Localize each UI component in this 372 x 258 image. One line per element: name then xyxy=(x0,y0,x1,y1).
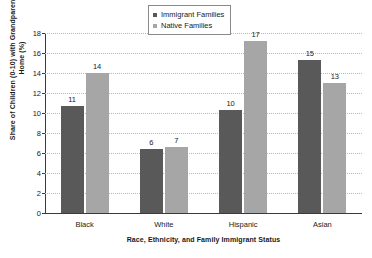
bar-value-label: 14 xyxy=(93,62,101,71)
x-axis-category-label: White xyxy=(154,220,173,229)
x-axis-category-label: Asian xyxy=(313,220,332,229)
y-axis-tick-mark xyxy=(42,133,45,134)
bar-value-label: 13 xyxy=(331,72,339,81)
bar-value-label: 11 xyxy=(68,95,76,104)
y-axis-tick-mark xyxy=(42,53,45,54)
legend-item-native-families: Native Families xyxy=(153,20,224,31)
y-axis-tick-label: 6 xyxy=(37,149,41,158)
plot-area: 024681012141618 11146710171513 BlackWhit… xyxy=(45,33,362,213)
bar xyxy=(165,147,188,213)
bar xyxy=(86,73,109,213)
y-axis-tick-label: 16 xyxy=(33,49,41,58)
y-axis-tick-mark xyxy=(42,213,45,214)
y-axis-tick-label: 18 xyxy=(33,29,41,38)
bar xyxy=(140,149,163,213)
y-axis-tick-mark xyxy=(42,193,45,194)
y-axis-tick-label: 4 xyxy=(37,169,41,178)
bar xyxy=(323,83,346,213)
y-axis-line xyxy=(45,33,46,213)
legend-item-label: Immigrant Families xyxy=(161,10,224,19)
y-axis-tick-mark xyxy=(42,73,45,74)
bar-value-label: 17 xyxy=(251,30,259,39)
legend-item-label: Native Families xyxy=(161,21,212,30)
bar-value-label: 15 xyxy=(306,49,314,58)
square-marker-light-icon xyxy=(153,24,157,28)
y-axis-tick-mark xyxy=(42,153,45,154)
bar xyxy=(298,60,321,213)
y-axis-tick-label: 10 xyxy=(33,109,41,118)
y-axis-tick-mark xyxy=(42,93,45,94)
bar xyxy=(244,41,267,213)
y-axis-tick-label: 12 xyxy=(33,89,41,98)
legend-item-immigrant-families: Immigrant Families xyxy=(153,9,224,20)
bar-chart: Share of Children (0-10) with Grandparen… xyxy=(0,0,372,258)
y-axis-tick-mark xyxy=(42,173,45,174)
bar-value-label: 10 xyxy=(226,99,234,108)
y-axis-title: Share of Children (0-10) with Grandparen… xyxy=(5,0,31,148)
x-axis-line xyxy=(45,213,362,214)
x-axis-title: Race, Ethnicity, and Family Immigrant St… xyxy=(45,236,362,243)
chart-legend: Immigrant Families Native Families xyxy=(148,5,231,35)
y-axis-tick-mark xyxy=(42,113,45,114)
bar-value-label: 6 xyxy=(149,138,153,147)
x-axis-category-label: Black xyxy=(75,220,93,229)
gridline xyxy=(45,53,362,54)
bar xyxy=(61,106,84,213)
y-axis-tick-label: 14 xyxy=(33,69,41,78)
y-axis-tick-label: 2 xyxy=(37,189,41,198)
bar xyxy=(219,110,242,213)
x-axis-category-label: Hispanic xyxy=(229,220,258,229)
y-axis-tick-label: 0 xyxy=(37,209,41,218)
square-marker-dark-icon xyxy=(153,13,157,17)
y-axis-tick-mark xyxy=(42,33,45,34)
bar-value-label: 7 xyxy=(174,136,178,145)
y-axis-tick-label: 8 xyxy=(37,129,41,138)
